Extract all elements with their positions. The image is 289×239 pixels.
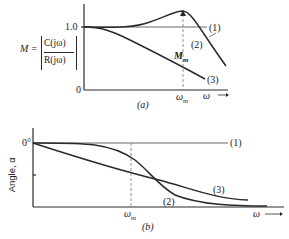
curve-2b [33,143,267,206]
ytick-0: 0 [76,85,81,95]
label-curve-1b: (1) [230,138,242,148]
figure-b-axes [33,128,284,207]
label-curve-2a: (2) [191,40,203,50]
ylabel-angle: Angle, α [7,157,17,192]
caption-a: (a) [137,100,149,110]
xtick-wm-a: ωm [176,92,188,105]
figure-a-axes [81,4,228,90]
ytick-1-0: 1.0 [65,22,78,32]
peak-label: Mm [174,51,188,64]
ylabel-m: M = [20,44,38,54]
label-curve-3a: (3) [207,75,219,85]
xtick-wm-b: ωm [124,209,136,222]
label-curve-1a: (1) [209,23,221,33]
ylabel-magnitude: C(jω) R(jω) [41,36,77,70]
ylabel-numerator: C(jω) [44,39,66,49]
label-curve-2b: (2) [163,197,175,207]
ylabel-denominator: R(jω) [44,56,66,66]
curve-2a [84,11,226,66]
ytick-0deg: 0° [22,138,31,148]
xaxis-label-b: ω [253,209,260,219]
xaxis-label-a: ω [203,91,210,101]
label-curve-3b: (3) [213,185,225,195]
caption-b: (b) [142,222,154,232]
